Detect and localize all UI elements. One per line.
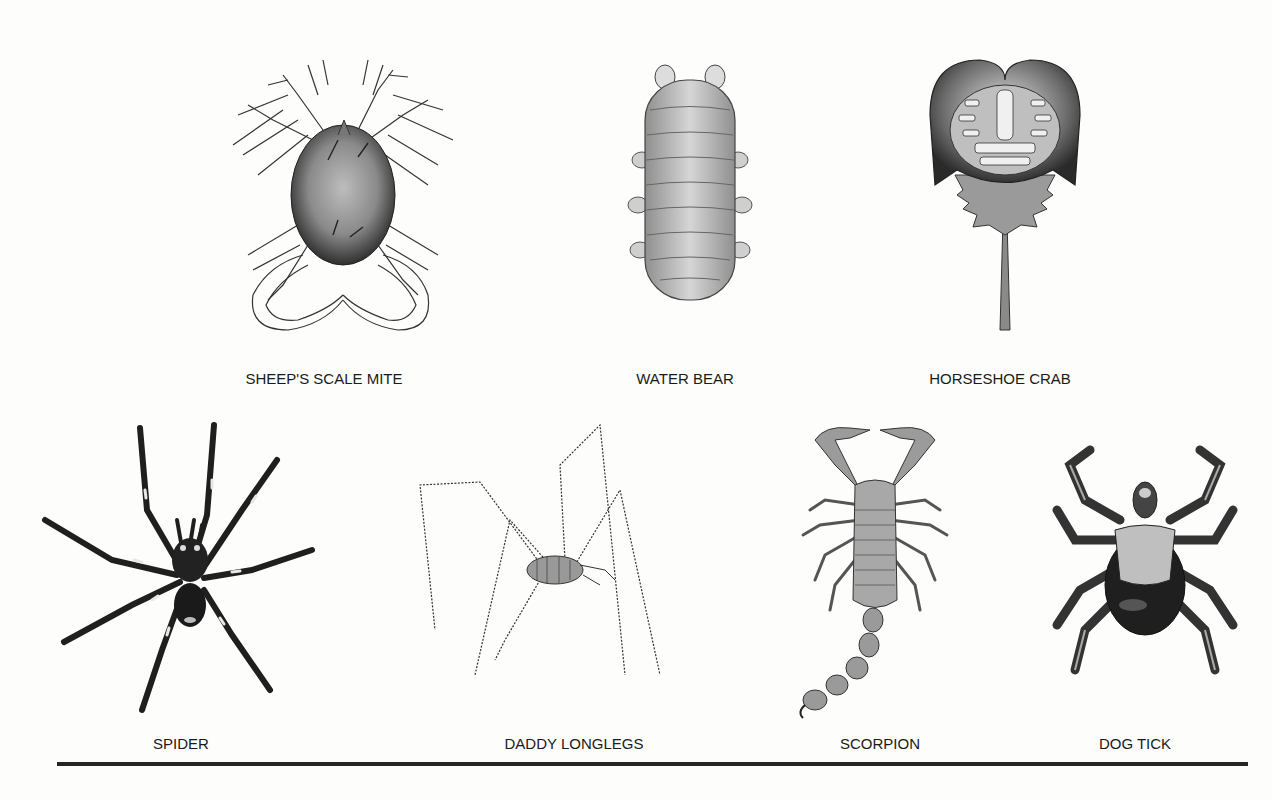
caption-water-bear: WATER BEAR [636, 370, 734, 387]
scorpion-illustration [795, 420, 955, 720]
scorpion-body [853, 480, 897, 608]
figure-dog-tick [1045, 445, 1245, 685]
figure-spider [42, 420, 317, 710]
caption-sheeps-scale-mite: SHEEP'S SCALE MITE [245, 370, 402, 387]
figure-water-bear [620, 55, 760, 305]
caption-daddy-longlegs: DADDY LONGLEGS [505, 735, 644, 752]
caption-scorpion: SCORPION [840, 735, 920, 752]
sheeps-scale-mite-illustration [228, 55, 458, 345]
figure-horseshoe-crab [925, 55, 1085, 335]
caption-dog-tick: DOG TICK [1099, 735, 1171, 752]
scorpion-stinger [800, 705, 805, 718]
water-bear-body [645, 80, 735, 300]
caption-spider: SPIDER [153, 735, 209, 752]
figure-scorpion [795, 420, 955, 720]
horseshoe-crab-illustration [925, 55, 1085, 335]
mite-body [291, 125, 395, 265]
dog-tick-illustration [1045, 445, 1245, 685]
spider-illustration [42, 420, 317, 710]
daddy-longlegs-illustration [415, 420, 675, 680]
spider-cephalothorax [172, 538, 208, 582]
footer-rule [57, 762, 1248, 766]
water-bear-illustration [620, 55, 760, 305]
figure-sheeps-scale-mite [228, 55, 458, 345]
daddy-longlegs-body [527, 556, 583, 584]
figure-daddy-longlegs [415, 420, 675, 680]
caption-horseshoe-crab: HORSESHOE CRAB [929, 370, 1071, 387]
